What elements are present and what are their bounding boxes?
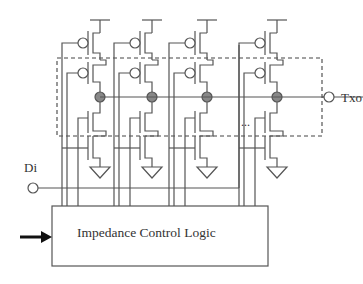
- input-arrow-icon: [41, 231, 52, 243]
- nmos-enable-gate-wire: [78, 118, 88, 206]
- pmos-enable-bubble-icon: [78, 68, 88, 78]
- pmos-enable-bubble-icon: [255, 68, 265, 78]
- txo-label: Txo: [341, 90, 362, 105]
- driver-column-3: [169, 20, 217, 206]
- nmos-enable-channel: [270, 102, 283, 136]
- txo-terminal: [324, 92, 334, 102]
- pmos-enable-gate-wire: [67, 73, 78, 206]
- nmos-enable-gate-wire: [255, 118, 265, 206]
- pmos-enable-gate-wire: [174, 73, 185, 206]
- nmos-enable-gate-wire: [130, 118, 140, 206]
- logic-block-label: Impedance Control Logic: [77, 225, 216, 240]
- pmos-top-gate-wire: [169, 43, 185, 206]
- pmos-top-bubble-icon: [78, 38, 88, 48]
- ground-icon: [142, 167, 162, 178]
- ground-icon: [90, 167, 110, 178]
- pmos-enable-gate-wire: [119, 73, 130, 206]
- circuit-diagram: Txo ... Di Impedance Control Logic: [0, 0, 363, 284]
- driver-column-1: [62, 20, 110, 206]
- driver-column-4: [239, 20, 287, 206]
- ground-icon: [197, 167, 217, 178]
- pmos-top-channel: [200, 33, 207, 60]
- nmos-bottom-channel: [200, 136, 207, 167]
- pmos-enable-bubble-icon: [185, 68, 195, 78]
- driver-columns: [62, 20, 287, 206]
- ellipsis-label: ...: [241, 115, 250, 129]
- pmos-top-channel: [145, 33, 152, 60]
- nmos-bottom-channel: [270, 136, 277, 167]
- driver-column-2: [114, 20, 162, 206]
- pmos-enable-bubble-icon: [130, 68, 140, 78]
- di-terminal: [28, 183, 38, 193]
- pmos-top-bubble-icon: [255, 38, 265, 48]
- nmos-bottom-channel: [145, 136, 152, 167]
- nmos-enable-channel: [145, 102, 158, 136]
- nmos-enable-gate-wire: [185, 118, 195, 206]
- pmos-top-bubble-icon: [130, 38, 140, 48]
- pmos-top-channel: [270, 33, 277, 60]
- nmos-bottom-channel: [93, 136, 100, 167]
- ground-icon: [267, 167, 287, 178]
- nmos-enable-channel: [200, 102, 213, 136]
- nmos-enable-channel: [93, 102, 106, 136]
- pmos-top-channel: [93, 33, 100, 60]
- pmos-top-gate-wire: [114, 43, 130, 206]
- di-label: Di: [24, 160, 37, 175]
- pmos-top-gate-wire: [62, 43, 78, 206]
- pmos-enable-gate-wire: [244, 73, 255, 206]
- pmos-top-bubble-icon: [185, 38, 195, 48]
